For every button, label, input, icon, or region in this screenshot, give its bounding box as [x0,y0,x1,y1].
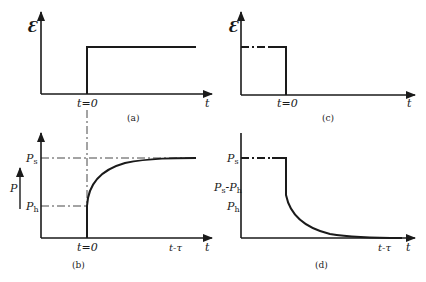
pressure-relaxation-curve [272,158,402,238]
ph-label: Ph [226,200,240,214]
t0-label: t=0 [77,97,98,110]
t-tau-label: t-τ [169,242,182,253]
p-axis-label: P [9,182,18,195]
panel-d: Ps Ps-Ph Ph t t-τ (d) [213,133,415,270]
x-axis-label: t [205,97,210,110]
strain-release-curve [270,47,286,95]
ph-label: Ph [25,200,39,214]
t0-label: t=0 [77,241,98,254]
caption-b: (b) [72,260,85,270]
x-axis-label: t [406,241,411,254]
t-tau-label: t-τ [378,242,391,253]
pressure-rise-curve [87,158,196,238]
caption-d: (d) [315,260,328,270]
step-strain-curve [87,47,196,94]
ps-minus-ph-label: Ps-Ph [213,181,242,195]
y-axis-label: Ɛ [27,19,38,35]
caption-a: (a) [127,113,139,123]
panel-b: P Ps Ph t t=0 t-τ (b) [9,133,212,270]
x-axis-label: t [205,241,210,254]
x-axis-label: t [407,97,412,110]
y-axis-label: Ɛ [228,19,239,35]
ps-label: Ps [25,152,38,166]
t0-label: t=0 [277,97,298,110]
panel-a: Ɛ t t=0 (a) [27,12,212,238]
panel-c: Ɛ t t=0 (c) [228,12,415,123]
ps-label: Ps [226,152,239,166]
caption-c: (c) [322,113,334,123]
strain-pressure-diagram: Ɛ t t=0 (a) Ɛ t t=0 (c) P Ps Ph t t=0 t-… [0,0,426,282]
